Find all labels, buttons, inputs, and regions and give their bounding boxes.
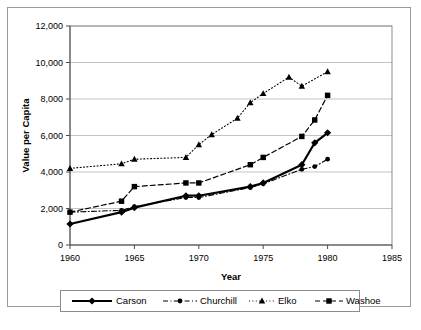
marker-triangle bbox=[196, 141, 202, 147]
marker-square bbox=[67, 209, 72, 214]
marker-square bbox=[260, 155, 265, 160]
marker-triangle bbox=[299, 83, 305, 89]
marker-square bbox=[248, 162, 253, 167]
y-axis-title: Value per Capita bbox=[20, 98, 31, 173]
marker-square bbox=[183, 180, 188, 185]
chart-figure: 02,0004,0006,0008,00010,00012,0001960196… bbox=[0, 0, 421, 330]
y-tick-label: 0 bbox=[58, 240, 63, 250]
series-line bbox=[70, 72, 328, 169]
marker-circle bbox=[299, 167, 304, 172]
marker-circle bbox=[312, 164, 317, 169]
marker-triangle bbox=[67, 165, 73, 171]
marker-circle bbox=[119, 208, 124, 213]
marker-triangle bbox=[324, 68, 330, 74]
marker-circle bbox=[196, 195, 201, 200]
y-tick-label: 10,000 bbox=[35, 58, 63, 68]
marker-circle bbox=[325, 157, 330, 162]
marker-square bbox=[119, 198, 124, 203]
x-axis-title: Year bbox=[221, 271, 241, 282]
x-tick-label: 1965 bbox=[124, 253, 144, 263]
marker-square bbox=[132, 184, 137, 189]
gridlines bbox=[70, 26, 392, 209]
y-tick-label: 12,000 bbox=[35, 21, 63, 31]
marker-square bbox=[312, 117, 317, 122]
y-tick-label: 4,000 bbox=[40, 167, 63, 177]
legend-label-churchill[interactable]: Churchill bbox=[200, 295, 237, 306]
marker-triangle bbox=[208, 131, 214, 137]
marker-triangle bbox=[234, 115, 240, 121]
legend: CarsonChurchillElkoWashoe bbox=[72, 295, 381, 306]
marker-circle bbox=[261, 181, 266, 186]
y-tick-label: 2,000 bbox=[40, 204, 63, 214]
marker-circle bbox=[248, 185, 253, 190]
x-tick-label: 1970 bbox=[189, 253, 209, 263]
series-line bbox=[70, 159, 328, 212]
x-tick-label: 1980 bbox=[318, 253, 338, 263]
marker-circle bbox=[132, 204, 137, 209]
marker-triangle bbox=[247, 99, 253, 105]
x-tick-label: 1985 bbox=[382, 253, 402, 263]
marker-circle bbox=[184, 195, 189, 200]
y-axis-ticks: 02,0004,0006,0008,00010,00012,000 bbox=[35, 21, 70, 250]
marker-triangle bbox=[286, 74, 292, 80]
y-tick-label: 8,000 bbox=[40, 94, 63, 104]
marker-square bbox=[326, 298, 331, 303]
marker-square bbox=[299, 134, 304, 139]
marker-diamond bbox=[66, 220, 73, 227]
marker-triangle bbox=[260, 90, 266, 96]
marker-diamond bbox=[88, 297, 95, 304]
line-chart: 02,0004,0006,0008,00010,00012,0001960196… bbox=[0, 0, 421, 330]
marker-square bbox=[325, 93, 330, 98]
legend-label-elko[interactable]: Elko bbox=[278, 295, 296, 306]
x-tick-label: 1975 bbox=[253, 253, 273, 263]
marker-circle bbox=[178, 299, 183, 304]
x-tick-label: 1960 bbox=[60, 253, 80, 263]
y-tick-label: 6,000 bbox=[40, 131, 63, 141]
x-axis-ticks: 196019651970197519801985 bbox=[60, 245, 402, 263]
series-elko bbox=[67, 68, 331, 171]
marker-square bbox=[196, 180, 201, 185]
legend-label-washoe[interactable]: Washoe bbox=[346, 295, 381, 306]
legend-label-carson[interactable]: Carson bbox=[116, 295, 147, 306]
